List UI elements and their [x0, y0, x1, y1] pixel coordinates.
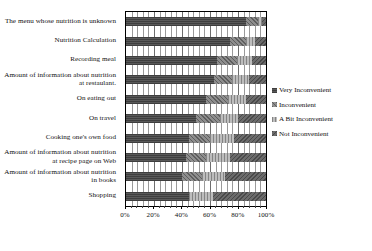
axis-tick-label: 40%: [175, 211, 188, 220]
axis-tick-minor: [170, 206, 171, 208]
axis-tick-minor: [260, 206, 261, 208]
axis-tick: [181, 206, 182, 209]
stacked-bar[interactable]: [126, 56, 266, 65]
bar-segment[interactable]: [126, 37, 230, 46]
plot-area: [125, 11, 267, 207]
bar-segment[interactable]: [255, 37, 266, 46]
axis-tick: [153, 206, 154, 209]
axis-tick-minor: [198, 206, 199, 208]
axis-tick-label: 80%: [231, 211, 244, 220]
bar-segment[interactable]: [246, 95, 266, 104]
bar-row: [126, 128, 266, 147]
bar-segment[interactable]: [238, 114, 266, 123]
axis-tick-minor: [187, 206, 188, 208]
legend-swatch-icon: [272, 88, 277, 93]
legend-item: Not Inconvenient: [272, 130, 372, 138]
category-label: Recording meal: [0, 50, 120, 69]
axis-ticks: [125, 206, 266, 210]
category-label: On travel: [0, 108, 120, 127]
axis-tick-minor: [204, 206, 205, 208]
stacked-bar[interactable]: [126, 17, 266, 26]
bar-segment[interactable]: [237, 56, 252, 65]
bar-segment[interactable]: [246, 17, 257, 26]
legend-item: Inconvenient: [272, 101, 372, 109]
bar-segment[interactable]: [196, 114, 220, 123]
bar-segment[interactable]: [189, 134, 210, 143]
legend-label: A Bit Inconvenient: [279, 115, 333, 123]
axis-tick: [210, 206, 211, 209]
bar-segment[interactable]: [262, 17, 266, 26]
legend-item: A Bit Inconvenient: [272, 115, 372, 123]
bar-segment[interactable]: [189, 192, 213, 201]
stacked-bar[interactable]: [126, 114, 266, 123]
bar-segment[interactable]: [126, 17, 246, 26]
bar-segment[interactable]: [126, 134, 189, 143]
bar-row: [126, 12, 266, 31]
axis-tick-minor: [227, 206, 228, 208]
legend-swatch-icon: [272, 131, 277, 136]
bar-segment[interactable]: [182, 172, 202, 181]
bar-row: [126, 51, 266, 70]
bar-segment[interactable]: [252, 56, 266, 65]
stacked-bar[interactable]: [126, 172, 266, 181]
bar-row: [126, 90, 266, 109]
bar-segment[interactable]: [126, 172, 182, 181]
bar-segment[interactable]: [213, 192, 266, 201]
axis-tick-minor: [243, 206, 244, 208]
bar-segment[interactable]: [217, 56, 237, 65]
bar-segment[interactable]: [126, 114, 196, 123]
bar-segment[interactable]: [126, 95, 206, 104]
bar-segment[interactable]: [126, 153, 186, 162]
stacked-bar[interactable]: [126, 37, 266, 46]
bar-segment[interactable]: [126, 75, 214, 84]
bar-series-container: [126, 12, 266, 206]
axis-tick-label: 0%: [120, 211, 130, 220]
stacked-bar[interactable]: [126, 153, 266, 162]
legend-label: Inconvenient: [279, 101, 316, 109]
category-label: Shopping: [0, 186, 120, 205]
bar-segment[interactable]: [126, 192, 189, 201]
bar-segment[interactable]: [232, 75, 249, 84]
axis-tick-minor: [249, 206, 250, 208]
category-label: The menu whose nutrition is unknown: [0, 11, 120, 30]
axis-tick-label: 100%: [258, 211, 275, 220]
axis-tick-minor: [148, 206, 149, 208]
axis-tick-minor: [232, 206, 233, 208]
axis-tick-minor: [136, 206, 137, 208]
axis-tick-minor: [164, 206, 165, 208]
stacked-bar[interactable]: [126, 192, 266, 201]
bar-segment[interactable]: [228, 95, 246, 104]
bar-segment[interactable]: [206, 95, 228, 104]
bar-row: [126, 31, 266, 50]
bar-segment[interactable]: [220, 114, 238, 123]
bar-segment[interactable]: [234, 134, 266, 143]
legend-swatch-icon: [272, 117, 277, 122]
stacked-bar[interactable]: [126, 95, 266, 104]
bar-segment[interactable]: [186, 153, 206, 162]
chart-legend: Very Inconvenient Inconvenient A Bit Inc…: [272, 86, 372, 138]
category-label: Amount of information about nutrition in…: [0, 166, 120, 185]
bar-segment[interactable]: [249, 75, 266, 84]
axis-tick-minor: [193, 206, 194, 208]
axis-tick-label: 20%: [147, 211, 160, 220]
axis-tick-minor: [215, 206, 216, 208]
bar-segment[interactable]: [225, 172, 266, 181]
bar-segment[interactable]: [214, 75, 232, 84]
stacked-bar-chart: The menu whose nutrition is unknown Nutr…: [0, 0, 372, 251]
stacked-bar[interactable]: [126, 134, 266, 143]
bar-row: [126, 109, 266, 128]
stacked-bar[interactable]: [126, 75, 266, 84]
axis-tick-minor: [221, 206, 222, 208]
axis-tick-minor: [131, 206, 132, 208]
bar-segment[interactable]: [126, 56, 217, 65]
bar-segment[interactable]: [202, 172, 226, 181]
bar-segment[interactable]: [210, 134, 234, 143]
bar-segment[interactable]: [230, 153, 266, 162]
bar-segment[interactable]: [246, 37, 254, 46]
bar-row: [126, 148, 266, 167]
bar-segment[interactable]: [230, 37, 247, 46]
bar-segment[interactable]: [206, 153, 230, 162]
category-label: Cooking one's own food: [0, 127, 120, 146]
bar-row: [126, 167, 266, 186]
category-axis: The menu whose nutrition is unknown Nutr…: [0, 11, 120, 205]
